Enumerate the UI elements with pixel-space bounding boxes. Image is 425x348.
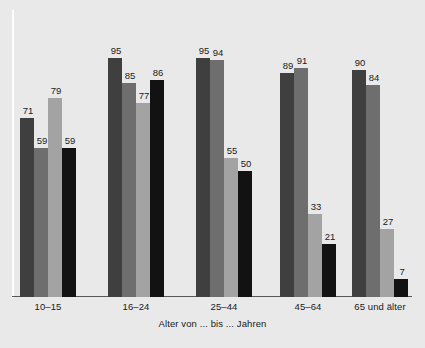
bar-slot: 55	[224, 10, 238, 297]
bar-slot: 7	[394, 10, 408, 297]
bar-slot: 77	[136, 10, 150, 297]
bar[interactable]	[308, 214, 322, 297]
bar-slot: 95	[108, 10, 122, 297]
bar-group: 71597959	[20, 10, 76, 297]
bars: 89913321	[280, 10, 336, 297]
x-axis-tick-label: 25–44	[184, 301, 264, 312]
bar[interactable]	[136, 103, 150, 297]
bar[interactable]	[62, 148, 76, 297]
x-axis-tick-label: 45–64	[268, 301, 348, 312]
bar-value-label: 21	[321, 232, 339, 242]
bar[interactable]	[238, 171, 252, 297]
x-axis-tick-label: 65 und älter	[340, 301, 420, 312]
bar-slot: 90	[352, 10, 366, 297]
bar[interactable]	[196, 58, 210, 297]
bar-slot: 21	[322, 10, 336, 297]
bar-value-label: 86	[149, 68, 167, 78]
bar-slot: 91	[294, 10, 308, 297]
bar-slot: 59	[34, 10, 48, 297]
bars: 71597959	[20, 10, 76, 297]
bar-group: 95945550	[196, 10, 252, 297]
bar[interactable]	[150, 80, 164, 297]
bar-slot: 50	[238, 10, 252, 297]
bar-slot: 59	[62, 10, 76, 297]
x-axis-title: Alter von ... bis ... Jahren	[0, 318, 425, 329]
bar[interactable]	[352, 70, 366, 297]
bars: 95857786	[108, 10, 164, 297]
bars: 9084277	[352, 10, 408, 297]
bar-slot: 84	[366, 10, 380, 297]
bar[interactable]	[122, 83, 136, 297]
bar[interactable]	[280, 73, 294, 297]
bar[interactable]	[366, 85, 380, 297]
bar[interactable]	[380, 229, 394, 297]
bar[interactable]	[48, 98, 62, 297]
bar[interactable]	[34, 148, 48, 297]
bar-slot: 95	[196, 10, 210, 297]
bar[interactable]	[108, 58, 122, 297]
bar-group: 9084277	[352, 10, 408, 297]
bar[interactable]	[20, 118, 34, 297]
bar-slot: 89	[280, 10, 294, 297]
x-axis-tick-label: 16–24	[96, 301, 176, 312]
bar-slot: 71	[20, 10, 34, 297]
bar-slot: 85	[122, 10, 136, 297]
bars: 95945550	[196, 10, 252, 297]
bar[interactable]	[224, 158, 238, 297]
bar-group: 89913321	[280, 10, 336, 297]
bar-slot: 94	[210, 10, 224, 297]
bar-value-label: 59	[61, 136, 79, 146]
bar-chart: 7159795910–159585778616–249594555025–448…	[0, 0, 425, 348]
bar-value-label: 50	[237, 159, 255, 169]
bar[interactable]	[394, 279, 408, 297]
bar[interactable]	[210, 60, 224, 297]
bar-slot: 33	[308, 10, 322, 297]
bar[interactable]	[294, 68, 308, 297]
bar-slot: 86	[150, 10, 164, 297]
bar[interactable]	[322, 244, 336, 297]
bar-slot: 79	[48, 10, 62, 297]
bar-value-label: 7	[393, 267, 411, 277]
x-axis-tick-label: 10–15	[8, 301, 88, 312]
bar-group: 95857786	[108, 10, 164, 297]
bar-slot: 27	[380, 10, 394, 297]
